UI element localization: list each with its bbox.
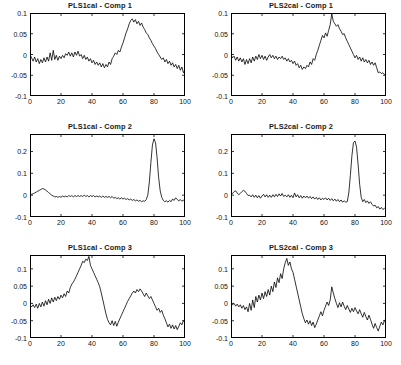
x-tick-label: 100 [179,98,191,106]
y-tick-label: -0.1 [15,93,27,100]
data-trace [231,255,386,338]
panel-title: PLS1cal - Comp 2 [0,122,200,131]
x-axis-ticks: 020406080100 [30,97,185,111]
x-tick-label: 60 [320,98,328,106]
x-tick-label: 20 [57,98,65,106]
y-tick-label: 0 [224,51,228,58]
y-axis-ticks: 0.20.10-0.1 [0,134,27,217]
x-tick-label: 60 [119,98,127,106]
y-tick-label: 0.05 [13,30,27,37]
x-tick-label: 0 [229,98,233,106]
x-tick-label: 0 [28,98,32,106]
y-tick-label: -0.1 [216,214,228,221]
x-tick-label: 100 [380,219,392,227]
data-trace [231,134,386,217]
y-tick-label: -0.1 [216,335,228,342]
y-tick-label: 0.1 [218,10,228,17]
data-trace [30,134,185,217]
y-tick-label: 0.2 [218,148,228,155]
x-tick-label: 0 [229,340,233,348]
plot-area [30,134,185,217]
plot-area [231,13,386,96]
y-tick-label: 0.2 [17,148,27,155]
plot-area [231,134,386,217]
x-tick-label: 20 [258,98,266,106]
x-tick-label: 20 [258,340,266,348]
x-axis-ticks: 020406080100 [231,218,386,232]
x-tick-label: 20 [57,340,65,348]
panel-title: PLS1cal - Comp 3 [0,243,200,252]
panel-pls1cal-comp1: PLS1cal - Comp 1 0.10.050-0.05-0.1 02040… [0,0,200,121]
x-tick-label: 40 [289,340,297,348]
y-tick-label: 0 [23,300,27,307]
x-tick-label: 60 [320,340,328,348]
panel-title: PLS1cal - Comp 1 [0,1,200,10]
x-axis-ticks: 020406080100 [231,97,386,111]
x-tick-label: 0 [28,340,32,348]
x-tick-label: 20 [57,219,65,227]
y-tick-label: 0 [23,192,27,199]
panel-pls1cal-comp3: PLS1cal - Comp 3 0.10.050-0.05-0.1 02040… [0,242,200,363]
plot-area [30,255,185,338]
y-tick-label: -0.05 [11,317,27,324]
x-tick-label: 100 [179,219,191,227]
x-tick-label: 40 [289,219,297,227]
y-tick-label: -0.05 [11,72,27,79]
x-tick-label: 60 [119,340,127,348]
panel-title: PLS2cal - Comp 1 [201,1,401,10]
x-tick-label: 40 [88,340,96,348]
x-tick-label: 20 [258,219,266,227]
panel-title: PLS2cal - Comp 3 [201,243,401,252]
x-tick-label: 80 [150,219,158,227]
y-tick-label: 0.05 [13,283,27,290]
x-tick-label: 80 [150,98,158,106]
x-tick-label: 100 [380,98,392,106]
y-tick-label: 0.05 [214,30,228,37]
data-trace [231,13,386,96]
y-tick-label: 0.1 [17,10,27,17]
y-tick-label: -0.1 [15,214,27,221]
x-tick-label: 40 [289,98,297,106]
y-tick-label: -0.1 [216,93,228,100]
y-tick-label: 0.1 [17,265,27,272]
x-axis-ticks: 020406080100 [231,339,386,353]
x-tick-label: 60 [320,219,328,227]
x-tick-label: 40 [88,98,96,106]
panel-title: PLS2cal - Comp 2 [201,122,401,131]
y-tick-label: 0.05 [214,283,228,290]
y-tick-label: 0.1 [17,170,27,177]
x-tick-label: 80 [351,219,359,227]
panel-pls1cal-comp2: PLS1cal - Comp 2 0.20.10-0.1 02040608010… [0,121,200,242]
panel-pls2cal-comp3: PLS2cal - Comp 3 0.10.050-0.05-0.1 02040… [201,242,401,363]
y-tick-label: -0.1 [15,335,27,342]
x-tick-label: 80 [150,340,158,348]
y-tick-label: 0 [23,51,27,58]
y-axis-ticks: 0.10.050-0.05-0.1 [0,255,27,338]
pls-components-figure: PLS1cal - Comp 1 0.10.050-0.05-0.1 02040… [0,0,401,365]
x-axis-ticks: 020406080100 [30,218,185,232]
y-tick-label: -0.05 [212,72,228,79]
y-axis-ticks: 0.20.10-0.1 [201,134,228,217]
x-tick-label: 80 [351,340,359,348]
x-tick-label: 60 [119,219,127,227]
x-axis-ticks: 020406080100 [30,339,185,353]
data-trace [30,13,185,96]
y-tick-label: 0.1 [218,265,228,272]
panel-pls2cal-comp2: PLS2cal - Comp 2 0.20.10-0.1 02040608010… [201,121,401,242]
x-tick-label: 80 [351,98,359,106]
y-axis-ticks: 0.10.050-0.05-0.1 [201,13,228,96]
x-tick-label: 0 [229,219,233,227]
data-trace [30,255,185,338]
x-tick-label: 100 [179,340,191,348]
y-tick-label: -0.05 [212,317,228,324]
panel-pls2cal-comp1: PLS2cal - Comp 1 0.10.050-0.05-0.1 02040… [201,0,401,121]
y-axis-ticks: 0.10.050-0.05-0.1 [201,255,228,338]
y-tick-label: 0 [224,300,228,307]
y-tick-label: 0.1 [218,170,228,177]
x-tick-label: 100 [380,340,392,348]
x-tick-label: 40 [88,219,96,227]
plot-area [30,13,185,96]
y-axis-ticks: 0.10.050-0.05-0.1 [0,13,27,96]
x-tick-label: 0 [28,219,32,227]
plot-area [231,255,386,338]
